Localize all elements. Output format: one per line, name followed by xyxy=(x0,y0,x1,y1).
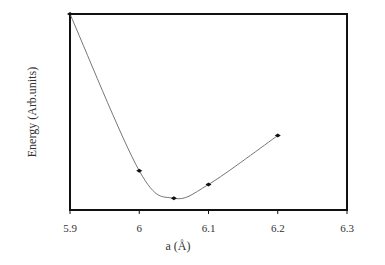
energy-vs-lattice-chart: 5.966.16.26.3 a (Å) Energy (Arb.units) xyxy=(0,0,385,265)
x-tick-label: 5.9 xyxy=(63,222,77,234)
x-tick-label: 6 xyxy=(137,222,143,234)
x-tick-label: 6.2 xyxy=(271,222,285,234)
x-axis-title: a (Å) xyxy=(166,239,191,253)
x-tick-label: 6.1 xyxy=(202,222,216,234)
data-point-marker xyxy=(171,196,177,200)
energy-curve xyxy=(70,14,278,199)
x-tick-labels: 5.966.16.26.3 xyxy=(63,222,354,234)
data-point-marker xyxy=(136,169,142,173)
data-point-marker xyxy=(67,12,73,16)
y-axis-title: Energy (Arb.units) xyxy=(25,67,39,157)
x-tick-label: 6.3 xyxy=(340,222,354,234)
data-markers xyxy=(67,12,281,200)
